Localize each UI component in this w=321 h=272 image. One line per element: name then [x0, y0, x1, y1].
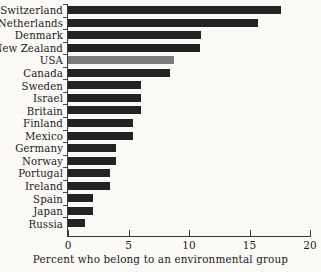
x-axis-tick: [250, 230, 251, 236]
bar-row: Spain: [0, 192, 321, 205]
bar-row: Switzerland: [0, 4, 321, 17]
bar: [68, 69, 170, 77]
category-label: USA: [40, 55, 63, 66]
bar: [68, 219, 85, 227]
x-axis-tick-label: 10: [182, 239, 195, 251]
x-axis-tick-label: 20: [303, 239, 316, 251]
category-label: Denmark: [15, 30, 63, 41]
bar-row: Sweden: [0, 79, 321, 92]
bar-row: New Zealand: [0, 42, 321, 55]
category-label: Netherlands: [0, 17, 63, 28]
bar-row: Ireland: [0, 180, 321, 193]
bar-row: Denmark: [0, 29, 321, 42]
bar-row: Britain: [0, 104, 321, 117]
category-label: Canada: [23, 68, 63, 79]
y-axis-line: [67, 4, 68, 236]
x-axis-tick-label: 0: [65, 239, 72, 251]
bar: [68, 31, 201, 39]
plot-area: SwitzerlandNetherlandsDenmarkNew Zealand…: [0, 0, 321, 272]
x-axis-tick-label: 15: [243, 239, 256, 251]
bar-row: USA: [0, 54, 321, 67]
bar: [68, 81, 141, 89]
category-label: Japan: [33, 206, 63, 217]
x-axis-title: Percent who belong to an environmental g…: [0, 253, 321, 265]
category-label: Britain: [27, 105, 63, 116]
bar: [68, 19, 258, 27]
bar-row: Germany: [0, 142, 321, 155]
bar: [68, 132, 133, 140]
bar-row: Russia: [0, 217, 321, 230]
category-label: Sweden: [22, 80, 63, 91]
category-label: New Zealand: [0, 42, 63, 53]
bar: [68, 44, 200, 52]
bar: [68, 106, 141, 114]
category-label: Norway: [22, 155, 63, 166]
category-label: Switzerland: [0, 5, 63, 16]
bar-row: Finland: [0, 117, 321, 130]
bar-row: Portugal: [0, 167, 321, 180]
bar: [68, 6, 281, 14]
bar: [68, 94, 141, 102]
bar: [68, 144, 116, 152]
x-axis-tick: [129, 230, 130, 236]
x-axis-tick-label: 5: [125, 239, 132, 251]
bar: [68, 182, 110, 190]
bar-chart: SwitzerlandNetherlandsDenmarkNew Zealand…: [0, 0, 321, 272]
bar: [68, 169, 110, 177]
category-label: Israel: [33, 93, 63, 104]
category-label: Germany: [15, 143, 63, 154]
bar: [68, 119, 133, 127]
category-label: Ireland: [25, 180, 63, 191]
category-label: Finland: [23, 118, 63, 129]
x-axis-tick: [68, 230, 69, 236]
bar: [68, 194, 93, 202]
bar-row: Norway: [0, 155, 321, 168]
bar: [68, 207, 93, 215]
bar-row: Mexico: [0, 130, 321, 143]
bar-row: Japan: [0, 205, 321, 218]
bar: [68, 56, 174, 64]
x-axis-line: [67, 236, 311, 237]
x-axis-tick: [189, 230, 190, 236]
bar-row: Netherlands: [0, 17, 321, 30]
bar-row: Canada: [0, 67, 321, 80]
bar-row: Israel: [0, 92, 321, 105]
category-label: Russia: [28, 218, 63, 229]
bar: [68, 157, 116, 165]
category-label: Spain: [33, 193, 63, 204]
category-label: Mexico: [25, 130, 63, 141]
x-axis-tick: [310, 230, 311, 236]
category-label: Portugal: [18, 168, 63, 179]
